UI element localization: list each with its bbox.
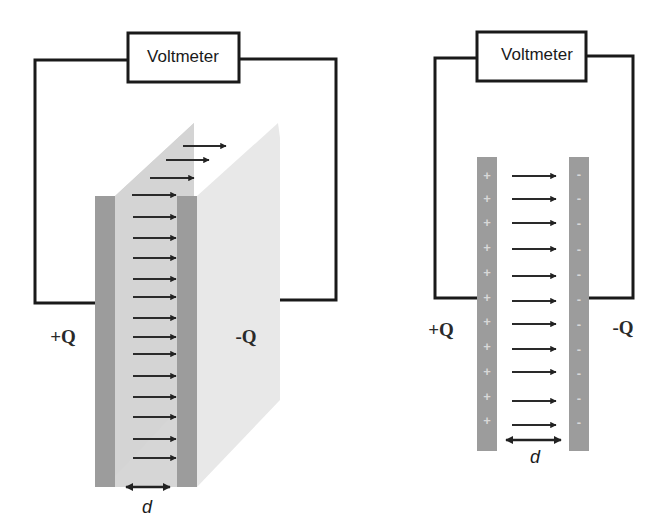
- left-voltmeter: Voltmeter: [128, 33, 239, 82]
- svg-text:-: -: [577, 415, 581, 430]
- right-negative-charge-label: -Q: [612, 317, 633, 338]
- svg-text:-: -: [577, 267, 581, 282]
- svg-text:-: -: [577, 191, 581, 206]
- left-positive-charge-label: +Q: [50, 326, 76, 347]
- left-voltmeter-label: Voltmeter: [147, 47, 219, 66]
- svg-text:-: -: [577, 216, 581, 231]
- svg-text:-: -: [577, 292, 581, 307]
- svg-text:+: +: [483, 168, 491, 183]
- svg-text:+: +: [483, 265, 491, 280]
- right-field-arrows: [512, 176, 556, 425]
- svg-text:+: +: [483, 290, 491, 305]
- svg-text:+: +: [483, 215, 491, 230]
- svg-text:+: +: [483, 389, 491, 404]
- left-positive-plate: [95, 196, 115, 487]
- svg-text:-: -: [577, 342, 581, 357]
- right-separation-label: d: [530, 447, 541, 467]
- left-negative-plate-face: [197, 123, 280, 487]
- svg-text:+: +: [483, 413, 491, 428]
- svg-text:+: +: [483, 364, 491, 379]
- right-voltmeter: Voltmeter: [477, 32, 586, 81]
- svg-text:+: +: [483, 240, 491, 255]
- svg-text:-: -: [577, 366, 581, 381]
- left-capacitor-3d: Voltmeter: [35, 33, 336, 517]
- svg-text:-: -: [577, 242, 581, 257]
- left-negative-charge-label: -Q: [235, 326, 256, 347]
- right-voltmeter-label: Voltmeter: [501, 45, 573, 64]
- capacitor-diagram: Voltmeter: [0, 0, 670, 529]
- svg-text:-: -: [577, 167, 581, 182]
- svg-text:+: +: [483, 191, 491, 206]
- left-separation-label: d: [142, 497, 153, 517]
- svg-text:-: -: [577, 317, 581, 332]
- right-positive-charge-label: +Q: [428, 319, 454, 340]
- svg-text:+: +: [483, 339, 491, 354]
- svg-text:-: -: [577, 391, 581, 406]
- left-negative-plate: [177, 196, 197, 487]
- svg-text:+: +: [483, 314, 491, 329]
- right-capacitor-2d: Voltmeter + + + + + + + + + + + - - - - …: [428, 32, 633, 467]
